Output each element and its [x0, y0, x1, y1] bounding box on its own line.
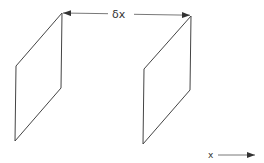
plane-right: [143, 16, 191, 144]
axis-label: x: [208, 150, 214, 160]
separation-label: δx: [112, 8, 126, 21]
diagram-canvas: δx x: [0, 0, 264, 163]
separation-arrow-left: [63, 13, 108, 14]
separation-arrow-right: [134, 14, 190, 15]
plane-left: [15, 13, 62, 141]
